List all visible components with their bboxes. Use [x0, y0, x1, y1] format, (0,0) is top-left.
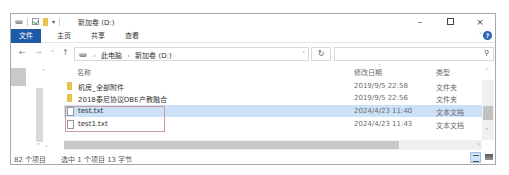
file-name: test.txt	[78, 107, 103, 115]
selection-info: 选中 1 个项目 13 字节	[61, 154, 132, 164]
file-date: 2019/9/5 22:58	[354, 82, 408, 90]
breadcrumb-this-pc[interactable]: 此电脑	[101, 52, 122, 60]
tab-home[interactable]: 主页	[51, 29, 77, 43]
file-row[interactable]: test1.txt 2024/4/23 11:43 文本文档	[64, 118, 482, 130]
large-icons-view-icon[interactable]	[485, 154, 493, 160]
file-name: test1.txt	[78, 120, 108, 128]
title-bar: ▾ 新加卷 (D:) – ×	[11, 14, 495, 29]
tab-view[interactable]: 查看	[119, 29, 145, 43]
refresh-button[interactable]: ↻	[311, 47, 331, 61]
scroll-down-icon[interactable]: ˅	[485, 127, 488, 134]
column-header-type[interactable]: 类型	[436, 66, 450, 80]
new-folder-icon[interactable]	[43, 18, 48, 26]
search-input[interactable]: ⚲	[334, 47, 494, 61]
divider	[27, 18, 28, 26]
file-date: 2019/9/5 22:56	[354, 94, 408, 102]
horizontal-scrollbar[interactable]: ›	[64, 140, 482, 150]
breadcrumb: › 此电脑 › 新加卷 (D:)	[90, 50, 172, 60]
divider	[59, 18, 60, 26]
chevron-right-icon: ›	[93, 52, 96, 60]
scroll-up-icon[interactable]: ˄	[42, 68, 45, 75]
recent-locations-button[interactable]: ˅	[51, 49, 54, 56]
tab-share[interactable]: 共享	[85, 29, 111, 43]
search-icon: ⚲	[484, 49, 489, 57]
file-row[interactable]: 机房_全部附件 2019/9/5 22:58 文件夹	[64, 80, 482, 92]
drive-icon	[15, 20, 23, 24]
file-date: 2024/4/23 11:40	[354, 107, 412, 115]
vertical-scrollbar[interactable]: ˄ ˅	[482, 80, 494, 140]
breadcrumb-drive-d[interactable]: 新加卷 (D:)	[135, 52, 171, 60]
scroll-left-icon[interactable]: ‹	[45, 142, 47, 149]
up-button[interactable]: ↑	[62, 48, 69, 57]
drive-icon	[79, 53, 87, 57]
file-name: 机房_全部附件	[78, 82, 124, 92]
scroll-down-icon[interactable]: ˅	[37, 142, 40, 149]
item-count: 82 个项目	[14, 154, 46, 164]
scrollbar-thumb[interactable]	[483, 106, 493, 120]
chevron-down-icon[interactable]: ˅	[479, 31, 482, 38]
file-row-selected[interactable]: test.txt 2024/4/23 11:40 文本文档	[64, 105, 482, 117]
ribbon-tabs: 文件 主页 共享 查看 ˅ ?	[11, 29, 495, 43]
text-file-icon	[67, 107, 74, 116]
scrollbar-thumb[interactable]	[64, 141, 399, 149]
folder-icon	[67, 94, 72, 102]
file-type: 文件夹	[436, 82, 457, 92]
status-bar: 82 个项目 选中 1 个项目 13 字节	[11, 151, 495, 165]
file-name: 2018泰尼协议OBE产教融合	[78, 94, 167, 104]
file-list: 名称 ˇ 修改日期 类型 机房_全部附件 2019/9/5 22:58 文件夹 …	[51, 66, 497, 150]
forward-button[interactable]: →	[35, 48, 42, 57]
address-bar[interactable]: › 此电脑 › 新加卷 (D:) ˅	[74, 47, 309, 61]
properties-check-icon[interactable]	[32, 18, 39, 25]
close-button[interactable]: ×	[465, 14, 495, 29]
maximize-button[interactable]	[435, 14, 465, 29]
file-type: 文本文档	[436, 120, 464, 130]
details-view-icon[interactable]	[470, 152, 481, 163]
folder-icon	[67, 82, 72, 90]
help-icon[interactable]: ?	[483, 31, 492, 40]
nav-pane-scrollbar[interactable]	[36, 88, 43, 142]
chevron-right-icon: ›	[127, 52, 130, 60]
scroll-up-icon[interactable]: ˄	[485, 67, 488, 74]
address-dropdown-icon[interactable]: ˅	[302, 50, 305, 57]
tab-file[interactable]: 文件	[11, 29, 41, 43]
nav-pane-item[interactable]	[11, 68, 26, 86]
file-explorer-window: ▾ 新加卷 (D:) – × 文件 主页 共享 查看 ˅ ? ← → ˅ ↑ ›…	[10, 13, 496, 165]
file-type: 文件夹	[436, 94, 457, 104]
scroll-right-icon[interactable]: ›	[478, 140, 480, 147]
quick-access-toolbar: ▾	[15, 17, 60, 26]
minimize-button[interactable]: –	[405, 14, 435, 29]
text-file-icon	[67, 120, 74, 129]
file-date: 2024/4/23 11:43	[354, 120, 412, 128]
navigation-bar: ← → ˅ ↑ › 此电脑 › 新加卷 (D:) ˅ ↻ ⚲	[11, 44, 495, 64]
customize-dropdown-icon[interactable]: ▾	[52, 18, 55, 25]
navigation-pane[interactable]: ˄ ˅ ‹	[11, 66, 51, 150]
back-button[interactable]: ←	[19, 48, 26, 57]
column-header-date[interactable]: 修改日期	[354, 66, 382, 80]
column-header-name[interactable]: 名称	[77, 66, 91, 80]
file-type: 文本文档	[436, 107, 464, 117]
file-row[interactable]: 2018泰尼协议OBE产教融合 2019/9/5 22:56 文件夹	[64, 92, 482, 104]
window-controls: – ×	[405, 14, 495, 29]
maximize-icon	[447, 18, 454, 25]
window-title: 新加卷 (D:)	[78, 17, 114, 27]
